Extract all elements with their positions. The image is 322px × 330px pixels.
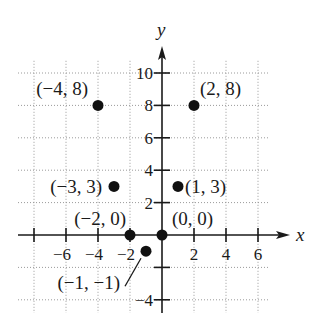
y-axis-label: y	[155, 19, 166, 40]
data-point	[93, 100, 104, 111]
data-point-label: (2, 8)	[200, 78, 241, 100]
x-tick-label: −6	[53, 245, 71, 264]
coordinate-plane: x y −6−4−2246108642−4 (−4, 8)(2, 8)(−3, …	[0, 0, 322, 330]
data-point	[109, 181, 120, 192]
x-axis-label: x	[295, 224, 305, 245]
y-tick-label: −4	[135, 291, 154, 310]
x-tick-label: 2	[190, 245, 199, 264]
data-point	[125, 230, 136, 241]
y-tick-label: 4	[145, 161, 154, 180]
axes: x y	[18, 19, 305, 313]
data-point-label: (−4, 8)	[36, 78, 88, 100]
x-tick-label: 6	[254, 245, 263, 264]
data-point-label: (0, 0)	[172, 208, 213, 230]
x-tick-label: −4	[85, 245, 104, 264]
data-point	[141, 246, 152, 257]
data-point	[189, 100, 200, 111]
data-point	[173, 181, 184, 192]
data-point-label: (−3, 3)	[50, 176, 102, 198]
data-point-label: (1, 3)	[185, 176, 226, 198]
data-point-label: (−2, 0)	[74, 208, 126, 230]
y-tick-label: 10	[136, 64, 153, 83]
data-point	[157, 230, 168, 241]
x-tick-label: −2	[117, 245, 135, 264]
y-tick-label: 8	[145, 96, 154, 115]
data-point-label: (−1, −1)	[57, 272, 120, 294]
y-tick-label: 2	[145, 194, 154, 213]
x-tick-label: 4	[222, 245, 231, 264]
y-tick-label: 6	[145, 129, 154, 148]
